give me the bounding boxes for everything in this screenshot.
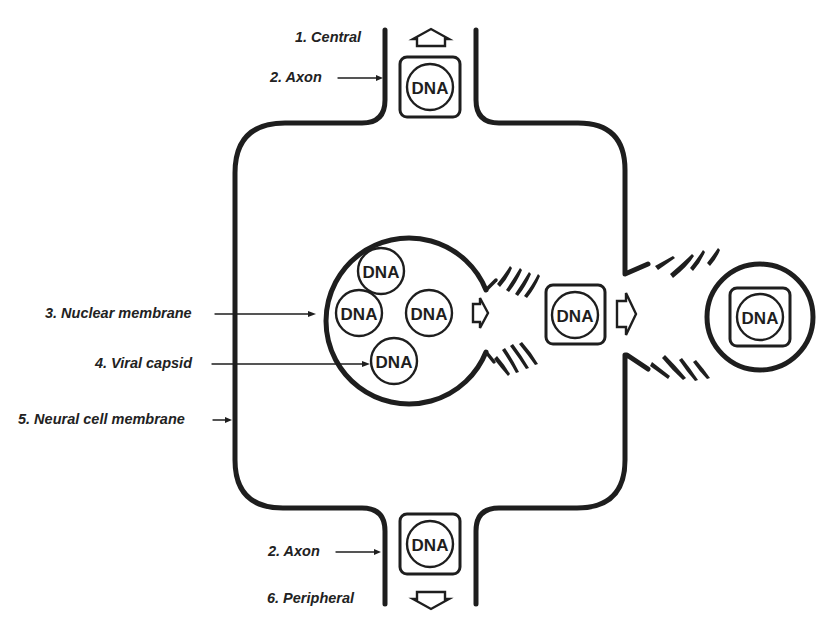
capsid-axon-top: DNA (400, 57, 460, 117)
svg-text:1. Central: 1. Central (295, 29, 362, 45)
dna-label: DNA (742, 309, 779, 328)
arrow-down-icon (413, 592, 449, 609)
label-nuclear-membrane: 3. Nuclear membrane (45, 305, 316, 321)
nucleus-dna-3: DNA (406, 290, 452, 336)
label-central: 1. Central (295, 29, 362, 45)
dna-label: DNA (376, 353, 413, 372)
svg-text:4. Viral capsid: 4. Viral capsid (94, 355, 193, 371)
small-arrow-right-icon (473, 298, 488, 328)
dna-label: DNA (341, 305, 378, 324)
enveloped-virion: DNA (707, 264, 813, 370)
label-axon-top: 2. Axon (269, 69, 383, 85)
label-axon-bottom: 2. Axon (267, 543, 381, 559)
label-viral-capsid: 4. Viral capsid (94, 355, 370, 371)
arrow-right-icon (617, 293, 636, 335)
dna-label: DNA (412, 536, 449, 555)
svg-text:6. Peripheral: 6. Peripheral (267, 590, 355, 606)
svg-text:2. Axon: 2. Axon (269, 69, 322, 85)
svg-text:3. Nuclear membrane: 3. Nuclear membrane (45, 305, 192, 321)
dna-label: DNA (363, 263, 400, 282)
capsid-axon-bottom: DNA (400, 514, 460, 574)
label-neural-cell-membrane: 5. Neural cell membrane (18, 411, 232, 427)
arrow-up-icon (413, 29, 449, 46)
neuron-viral-transport-diagram: DNA DNA DNA DNA DNA DNA DNA DNA 1. (0, 0, 836, 632)
dna-label: DNA (411, 305, 448, 324)
dna-label: DNA (557, 307, 594, 326)
nucleus-dna-1: DNA (358, 248, 404, 294)
label-peripheral: 6. Peripheral (267, 590, 355, 606)
svg-text:2. Axon: 2. Axon (267, 543, 320, 559)
nucleus-dna-2: DNA (336, 290, 382, 336)
dna-label: DNA (412, 79, 449, 98)
capsid-cytoplasm: DNA (546, 285, 605, 344)
svg-text:5. Neural cell membrane: 5. Neural cell membrane (18, 411, 185, 427)
nuclear-membrane-fragments (494, 266, 540, 376)
nucleus-dna-4: DNA (371, 338, 417, 384)
